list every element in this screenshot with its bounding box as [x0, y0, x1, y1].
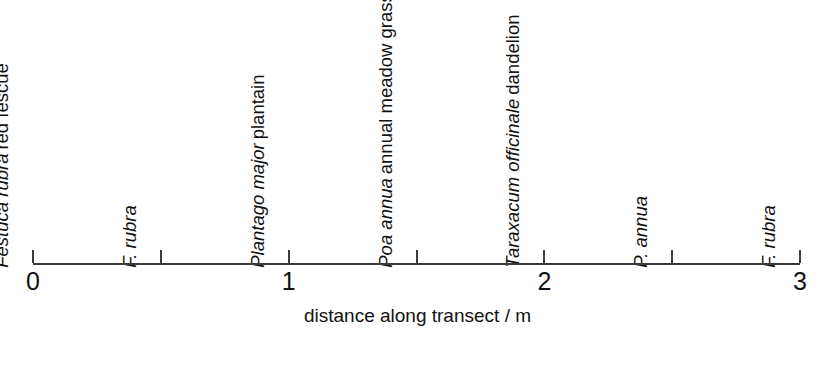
species-scientific-name: F. rubra	[759, 205, 780, 267]
axis-tick	[543, 250, 545, 263]
axis-tick	[671, 250, 673, 263]
species-label: F. rubra	[120, 205, 141, 267]
species-scientific-name: Taraxacum officinale	[504, 99, 525, 268]
axis-tick	[288, 250, 290, 263]
axis-tick-label: 3	[793, 269, 807, 294]
species-label: Festuca rubrared fescue	[0, 63, 13, 268]
axis-tick	[416, 250, 418, 263]
species-common-name: red fescue	[0, 63, 13, 149]
species-scientific-name: Festuca rubra	[0, 154, 13, 268]
axis-tick-label: 1	[282, 269, 296, 294]
transect-figure: Festuca rubrared fescueF. rubraPlantago …	[0, 0, 835, 368]
axis-tick	[799, 250, 801, 263]
species-scientific-name: P. annua	[631, 196, 652, 268]
species-label: F. rubra	[759, 205, 780, 267]
axis-title: distance along transect / m	[0, 305, 835, 327]
species-scientific-name: Plantago major	[248, 143, 269, 267]
axis-tick-label: 2	[537, 269, 551, 294]
species-scientific-name: Poa annua	[376, 178, 397, 268]
axis-line	[33, 263, 800, 265]
species-label: Poa annuaannual meadow grass	[376, 0, 397, 268]
species-label: Taraxacum officinaledandelion	[504, 14, 525, 267]
species-label: Plantago majorplantain	[248, 74, 269, 267]
species-common-name: annual meadow grass	[376, 0, 397, 174]
axis-tick	[32, 250, 34, 263]
axis-tick	[160, 250, 162, 263]
species-label: P. annua	[631, 196, 652, 268]
species-scientific-name: F. rubra	[120, 205, 141, 267]
species-common-name: dandelion	[504, 14, 525, 94]
axis-tick-label: 0	[26, 269, 40, 294]
species-common-name: plantain	[248, 74, 269, 139]
